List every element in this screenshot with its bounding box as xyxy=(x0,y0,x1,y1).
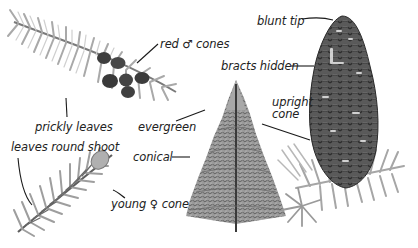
leader-blunt-tip xyxy=(302,18,333,20)
upright-cone-illustration xyxy=(278,16,404,226)
label-leaves-round-shoot: leaves round shoot xyxy=(11,141,119,154)
mature-cone xyxy=(310,16,379,188)
label-red-male-cones: red ♂ cones xyxy=(160,38,229,51)
label-bracts-hidden: bracts hidden xyxy=(221,60,299,73)
fir-identification-diagram: red ♂ cones prickly leaves leaves round … xyxy=(0,0,418,248)
label-evergreen: evergreen xyxy=(138,121,196,134)
leader-red-male-cones xyxy=(137,44,158,63)
leader-leaves-round-shoot xyxy=(18,158,32,205)
shoot-male-cones-illustration xyxy=(8,10,176,100)
label-conical: conical xyxy=(133,151,173,164)
leader-upright-cone xyxy=(262,124,310,140)
label-young-female-cone: young ♀ cone xyxy=(111,198,189,211)
whole-tree-illustration xyxy=(186,80,286,232)
label-prickly-leaves: prickly leaves xyxy=(35,121,113,134)
leader-prickly-leaves xyxy=(66,98,67,117)
label-upright-cone-line2: cone xyxy=(272,108,299,121)
shoot-young-female-cone-illustration xyxy=(14,147,113,236)
needle-whorl xyxy=(282,188,320,226)
label-blunt-tip: blunt tip xyxy=(257,15,304,28)
